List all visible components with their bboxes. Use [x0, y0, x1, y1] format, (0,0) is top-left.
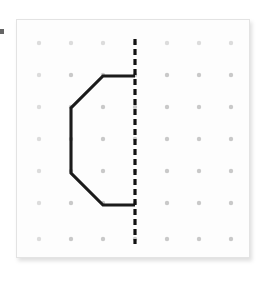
figure-stage: [0, 0, 266, 281]
grid-dot: [165, 169, 169, 173]
grid-dot: [37, 137, 41, 141]
grid-dot: [229, 41, 233, 45]
grid-dot: [101, 237, 105, 241]
grid-dot: [37, 105, 41, 109]
grid-dot: [229, 201, 233, 205]
grid-dot: [37, 169, 41, 173]
grid-dot: [229, 169, 233, 173]
grid-dot: [197, 105, 201, 109]
grid-dot: [197, 137, 201, 141]
grid-dot: [101, 169, 105, 173]
grid-dot: [69, 41, 73, 45]
grid-dot: [197, 237, 201, 241]
grid-dot: [197, 169, 201, 173]
grid-dot: [101, 137, 105, 141]
grid-dot: [197, 41, 201, 45]
edge-speck: [0, 29, 4, 34]
grid-dot: [229, 73, 233, 77]
grid-dot: [37, 201, 41, 205]
grid-dot: [37, 237, 41, 241]
grid-dot: [197, 201, 201, 205]
grid-dot: [69, 201, 73, 205]
grid-dot: [165, 73, 169, 77]
grid-dot: [69, 237, 73, 241]
grid-dot: [101, 41, 105, 45]
grid-dot: [165, 41, 169, 45]
grid-dot: [165, 137, 169, 141]
grid-dot: [69, 73, 73, 77]
grid-dot: [37, 41, 41, 45]
grid-dot: [101, 105, 105, 109]
grid-dot: [229, 105, 233, 109]
grid-dot: [133, 105, 137, 109]
dot-grid-board-panel: [16, 19, 250, 258]
grid-dot: [229, 137, 233, 141]
grid-dot: [229, 237, 233, 241]
grid-dot: [165, 105, 169, 109]
grid-dot: [197, 73, 201, 77]
grid-dot: [165, 237, 169, 241]
dot-grid-canvas: [17, 20, 251, 259]
grid-dot: [165, 201, 169, 205]
grid-dot: [37, 73, 41, 77]
